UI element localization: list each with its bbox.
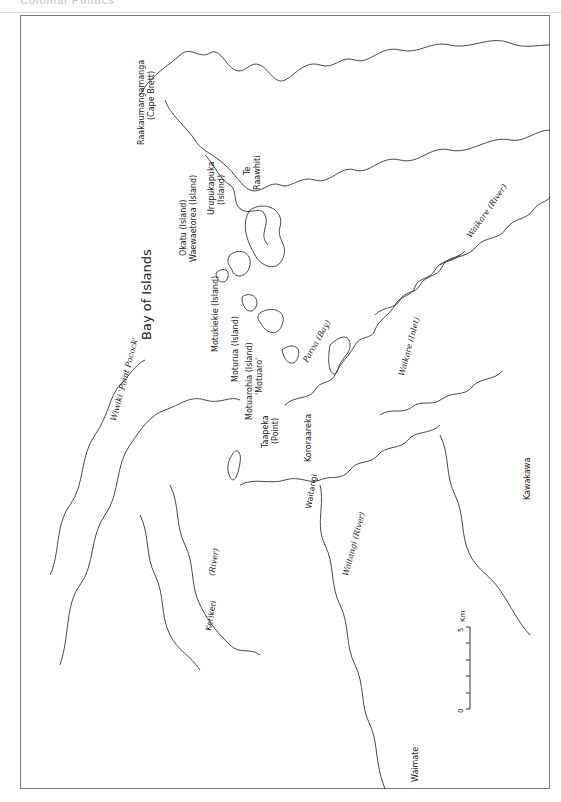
label-moturua: Moturua (Island) xyxy=(232,316,240,382)
label-waimate: Waimate xyxy=(412,747,420,782)
label-urupukapuka-island: (Island) xyxy=(218,175,226,205)
header-rule xyxy=(0,12,561,13)
label-urupukapuka: Urupukapuka xyxy=(208,162,216,215)
label-kawakawa: Kawakawa xyxy=(524,458,532,500)
scale-bar xyxy=(466,627,470,709)
label-motuaro: 'Motuaro' xyxy=(256,358,264,395)
label-okatu: Okatu (Island) xyxy=(180,200,188,256)
waewaetorea-island xyxy=(228,251,250,276)
label-motukiekie: Motukiekie (Island) xyxy=(212,276,220,352)
kerikeri-south xyxy=(140,515,200,670)
paroa-bay xyxy=(329,337,351,374)
label-raawhiti: Raawhiti xyxy=(254,156,262,190)
label-bay-of-islands: Bay of Islands xyxy=(140,249,154,340)
motuarohia-island xyxy=(282,346,299,363)
scale-zero-label: 0 xyxy=(458,709,465,713)
waikare-inlet-south xyxy=(380,371,502,415)
scale-five-label: 5 xyxy=(458,628,465,632)
west-coast-north xyxy=(50,360,145,575)
cape-brett-coast xyxy=(140,41,550,95)
label-te: Te xyxy=(244,167,252,175)
page-header: Colonial Politics xyxy=(0,0,561,12)
label-motuarohia: Motuarohia (Island) xyxy=(246,342,254,420)
scale-unit-label: Km xyxy=(460,611,467,622)
motukiekie-island xyxy=(242,295,257,311)
label-taapeka-point: (Point) xyxy=(272,418,280,444)
label-raakaumangamanga: Raakaumangamanga xyxy=(138,60,146,145)
label-kororaareka: Kororaareka xyxy=(305,414,313,462)
coastline-map xyxy=(20,15,550,789)
russell-peninsula xyxy=(285,255,460,405)
waikare-inlet-north xyxy=(375,251,465,315)
moturua-island xyxy=(258,309,283,332)
label-taapeka: Taapeka xyxy=(262,415,270,448)
running-header: Colonial Politics xyxy=(20,0,115,6)
label-cape-brett: (Cape Brett) xyxy=(148,71,156,120)
kawakawa-river xyxy=(440,435,530,635)
label-waewaetorea: Waewaetorea (Island) xyxy=(190,175,198,262)
small-island-1 xyxy=(228,451,241,480)
